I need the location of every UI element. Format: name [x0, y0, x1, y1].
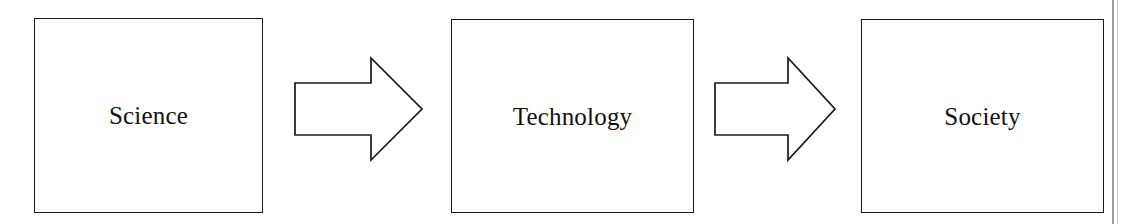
node-label-technology: Technology	[513, 104, 633, 129]
block-arrow-icon-technology-to-society	[714, 57, 836, 161]
node-label-science: Science	[109, 103, 188, 128]
diagram-canvas: Science Technology Society	[0, 0, 1131, 224]
page-edge-line-soft	[1117, 0, 1118, 224]
node-box-science[interactable]: Science	[34, 18, 263, 213]
node-box-society[interactable]: Society	[861, 19, 1104, 213]
page-edge-line	[1112, 0, 1114, 224]
node-box-technology[interactable]: Technology	[451, 19, 694, 213]
node-label-society: Society	[944, 104, 1020, 129]
block-arrow-icon-science-to-technology	[294, 57, 423, 161]
